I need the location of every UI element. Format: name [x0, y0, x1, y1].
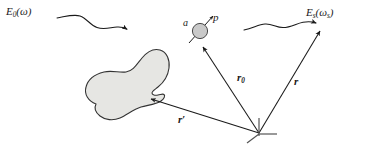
incident-wave-arrow	[57, 15, 127, 29]
vector-r-prime-label: r′	[178, 114, 185, 125]
scattered-field-label: Es(ωs)	[306, 7, 334, 20]
vector-r-prime-arrow	[151, 99, 259, 133]
incident-field-argument: (ω)	[16, 5, 31, 17]
vector-r-label: r	[294, 76, 298, 87]
dipole-moment-label: p	[213, 12, 219, 23]
vector-r0-arrow	[203, 47, 259, 133]
vector-r0-subscript: 0	[241, 77, 245, 85]
incident-field-symbol: E	[6, 5, 13, 17]
particle-circle	[192, 23, 207, 38]
scattered-field-argument: (ω	[316, 6, 327, 18]
incident-field-label: E0(ω)	[6, 6, 31, 19]
scattered-field-argument-close: )	[330, 6, 334, 18]
scattering-geometry-figure: E0(ω) a p Es(ωs) r0 r r′	[0, 0, 371, 152]
scattered-wave-arrow	[244, 22, 316, 30]
scattered-field-symbol: E	[306, 6, 313, 18]
polarizable-particle	[189, 16, 213, 43]
polarizability-label: a	[183, 18, 188, 28]
scattering-volume-blob	[85, 49, 169, 119]
vector-r0-label: r0	[237, 72, 245, 85]
vector-r-arrow	[259, 31, 320, 133]
vector-r-prime-mark: ′	[182, 113, 185, 125]
